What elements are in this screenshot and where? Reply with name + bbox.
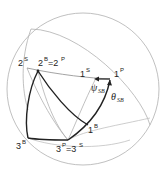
label-1b: 1 B bbox=[88, 123, 98, 135]
label-1p: 1 P bbox=[114, 67, 124, 79]
label-3b: 3 B bbox=[16, 139, 26, 151]
svg-text:=2: =2 bbox=[48, 58, 58, 68]
svg-text:S: S bbox=[86, 67, 90, 73]
svg-text:1: 1 bbox=[88, 125, 93, 135]
svg-text:S: S bbox=[24, 56, 28, 62]
sphere-diagram: 2 S 2 B =2 P 1 S 1 P ψ SB θ SB 1 B 3 B 3… bbox=[0, 0, 164, 169]
arc-2p-3p bbox=[38, 71, 68, 140]
svg-text:SB: SB bbox=[117, 97, 124, 103]
svg-text:2: 2 bbox=[18, 58, 23, 68]
great-circle-lower-right bbox=[68, 118, 150, 140]
label-theta-sb: θ SB bbox=[111, 91, 124, 103]
svg-text:SB: SB bbox=[98, 88, 105, 94]
svg-text:3: 3 bbox=[16, 141, 21, 151]
arc-2s-3s bbox=[27, 68, 68, 140]
svg-text:1: 1 bbox=[80, 69, 85, 79]
svg-text:ψ: ψ bbox=[91, 82, 98, 93]
point-2b bbox=[37, 70, 40, 73]
label-2s: 2 S bbox=[18, 56, 28, 68]
label-psi-sb: ψ SB bbox=[91, 82, 105, 94]
svg-text:B: B bbox=[22, 139, 26, 145]
svg-text:P: P bbox=[61, 56, 65, 62]
svg-text:P: P bbox=[120, 67, 124, 73]
svg-text:B: B bbox=[94, 123, 98, 129]
svg-text:θ: θ bbox=[111, 91, 116, 102]
great-circle-upper bbox=[31, 29, 150, 125]
svg-text:1: 1 bbox=[114, 69, 119, 79]
svg-text:S: S bbox=[79, 142, 83, 148]
svg-text:=3: =3 bbox=[66, 144, 76, 154]
svg-text:3: 3 bbox=[56, 144, 61, 154]
label-2b-2p: 2 B =2 P bbox=[38, 56, 65, 68]
label-3p-3s: 3 P =3 S bbox=[56, 142, 83, 154]
svg-text:2: 2 bbox=[38, 58, 43, 68]
